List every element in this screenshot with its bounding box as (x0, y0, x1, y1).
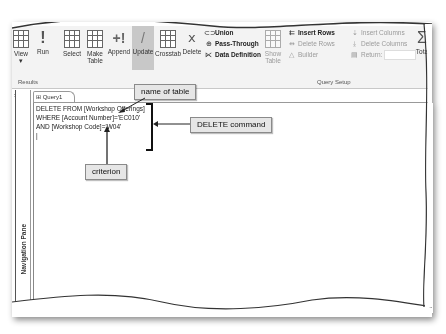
screenshot-frame: View ▾ ! Run Results Select Make Table +… (12, 22, 432, 317)
annotation-lines (12, 22, 432, 317)
